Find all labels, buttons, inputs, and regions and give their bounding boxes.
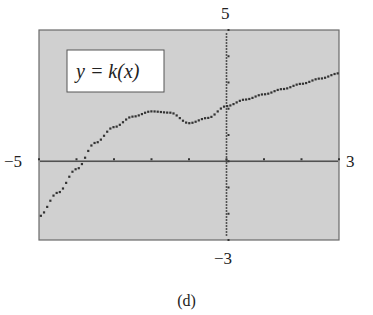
x-max-label: 3 xyxy=(346,153,355,170)
y-max-label: 5 xyxy=(221,5,230,22)
y-min-label: −3 xyxy=(214,250,232,267)
figure-caption: (d) xyxy=(0,292,373,310)
x-min-label: −5 xyxy=(4,153,22,170)
function-label: y = k(x) xyxy=(76,61,139,81)
plot-area xyxy=(0,0,373,315)
